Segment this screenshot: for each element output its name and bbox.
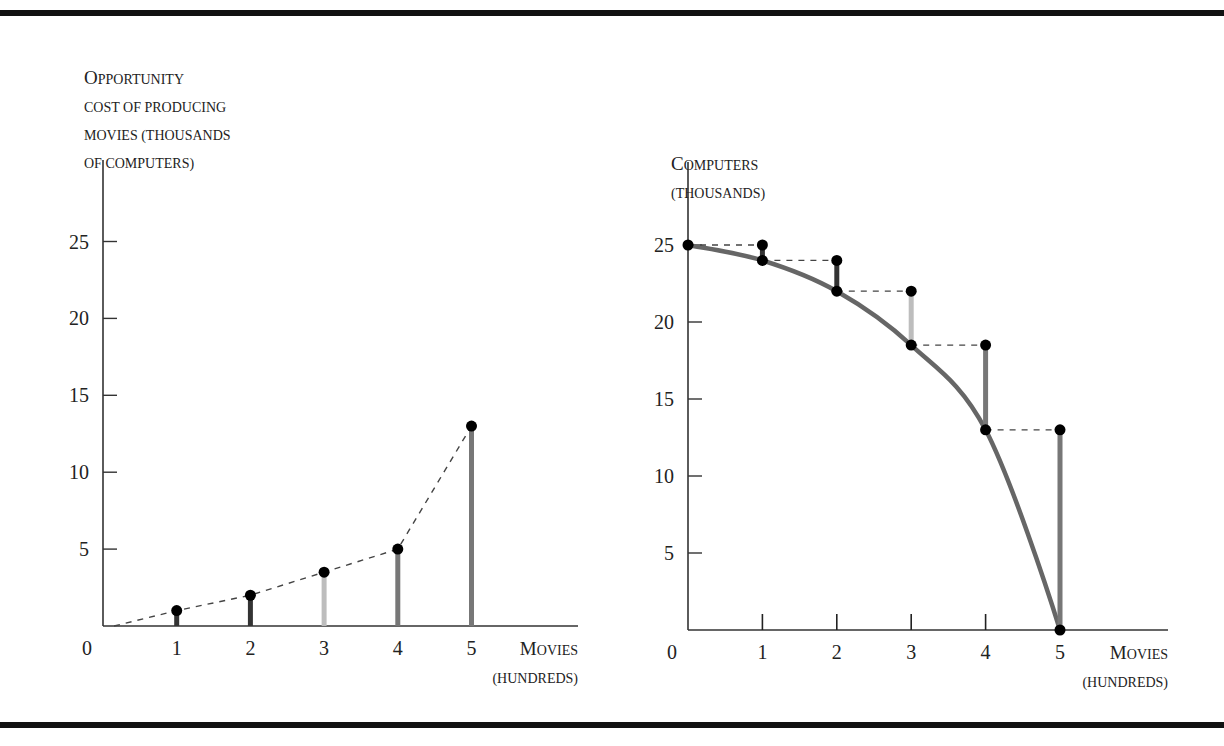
y-axis-title-line: COST OF PRODUCING [84, 100, 226, 115]
y-tick-label: 25 [654, 234, 674, 256]
x-tick-label: 4 [981, 641, 991, 663]
x-tick-label: 5 [467, 637, 477, 659]
x-axis-title: MOVIES [1110, 642, 1168, 663]
x-axis-title: MOVIES [520, 638, 578, 659]
data-point [392, 544, 403, 555]
y-tick-label: 5 [664, 542, 674, 564]
frontier-point [1055, 625, 1066, 636]
y-axis-title-line: (THOUSANDS) [671, 186, 765, 202]
step-top-point [831, 255, 842, 266]
frontier-point [757, 255, 768, 266]
data-point [245, 590, 256, 601]
y-axis-title-line: OF COMPUTERS) [84, 156, 194, 172]
y-tick-label: 10 [69, 461, 89, 483]
dashed-connector [114, 426, 471, 626]
x-tick-label: 3 [319, 637, 329, 659]
y-tick-label: 25 [69, 231, 89, 253]
step-top-point [757, 240, 768, 251]
origin-label: 0 [667, 641, 677, 663]
data-point [466, 421, 477, 432]
frontier-point [906, 340, 917, 351]
step-top-point [906, 286, 917, 297]
x-axis-subtitle: (HUNDREDS) [492, 671, 578, 687]
x-tick-label: 2 [832, 641, 842, 663]
frontier-point [683, 240, 694, 251]
y-tick-label: 10 [654, 465, 674, 487]
figure: 510152025123450MOVIES(HUNDREDS)OPPORTUNI… [0, 0, 1224, 746]
y-tick-label: 20 [69, 307, 89, 329]
origin-label: 0 [82, 637, 92, 659]
y-tick-label: 20 [654, 311, 674, 333]
step-top-point [980, 340, 991, 351]
data-point [319, 567, 330, 578]
y-axis-title-line: COMPUTERS [671, 153, 758, 174]
x-tick-label: 2 [245, 637, 255, 659]
x-axis-subtitle: (HUNDREDS) [1082, 675, 1168, 691]
y-tick-label: 15 [654, 388, 674, 410]
frontier-point [980, 424, 991, 435]
ppf-chart: 510152025123450MOVIES(HUNDREDS)COMPUTERS… [654, 153, 1168, 691]
y-axis-title-line: MOVIES (THOUSANDS [84, 128, 231, 144]
y-tick-label: 15 [69, 384, 89, 406]
opportunity-cost-chart: 510152025123450MOVIES(HUNDREDS)OPPORTUNI… [69, 67, 578, 687]
frontier-point [831, 286, 842, 297]
x-tick-label: 3 [906, 641, 916, 663]
step-top-point [1055, 424, 1066, 435]
y-axis-title-line: OPPORTUNITY [84, 67, 184, 88]
x-tick-label: 5 [1055, 641, 1065, 663]
y-tick-label: 5 [79, 538, 89, 560]
data-point [171, 605, 182, 616]
frontier-curve [688, 245, 1060, 630]
x-tick-label: 4 [393, 637, 403, 659]
x-tick-label: 1 [757, 641, 767, 663]
x-tick-label: 1 [172, 637, 182, 659]
